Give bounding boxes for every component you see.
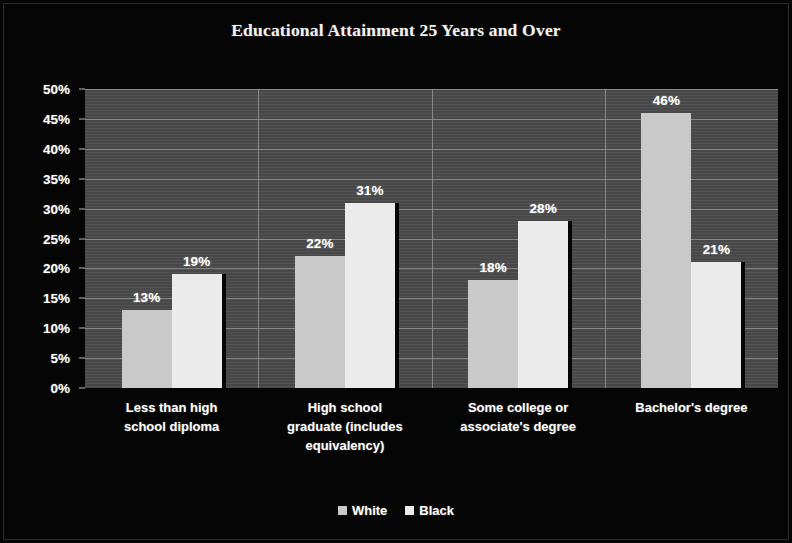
bar-white-1 [122,310,172,388]
category-label-2: High schoolgraduate (includesequivalency… [258,398,431,455]
bar-white-3 [468,280,518,388]
y-axis-tick-label: 40% [10,141,70,156]
category-label-4: Bachelor's degree [605,398,778,417]
bar-shadow [741,262,745,388]
bar-shadow [568,221,572,388]
legend-swatch-icon [338,506,347,515]
category-label-line: Bachelor's degree [605,398,778,417]
category-label-line: school diploma [85,417,258,436]
y-axis-tick-label: 0% [10,381,70,396]
chart-screenshot: Educational Attainment 25 Years and Over… [0,0,792,543]
y-axis-tick-label: 50% [10,82,70,97]
chart-title: Educational Attainment 25 Years and Over [0,20,792,41]
bar-black-1 [172,274,222,388]
y-axis-tick-label: 25% [10,231,70,246]
y-axis-tick-label: 30% [10,201,70,216]
category-label-line: Some college or [432,398,605,417]
category-label-line: Less than high [85,398,258,417]
bar-black-3 [518,221,568,388]
chart-legend: WhiteBlack [0,503,792,518]
category-separator [432,89,433,388]
category-label-line: High school [258,398,431,417]
legend-label: Black [419,503,454,518]
category-label-line: associate's degree [432,417,605,436]
bar-value-label: 18% [480,260,507,275]
bar-white-2 [295,256,345,388]
y-axis-tick-label: 15% [10,291,70,306]
bar-value-label: 13% [133,290,160,305]
legend-item-black[interactable]: Black [405,503,454,518]
bar-black-4 [691,262,741,388]
bar-value-label: 21% [703,242,730,257]
y-axis-tick-label: 35% [10,171,70,186]
legend-swatch-icon [405,506,414,515]
category-label-1: Less than highschool diploma [85,398,258,436]
category-separator [258,89,259,388]
bar-value-label: 28% [530,201,557,216]
bar-value-label: 19% [183,254,210,269]
bar-shadow [222,274,226,388]
legend-item-white[interactable]: White [338,503,387,518]
y-axis-tick-label: 10% [10,321,70,336]
bar-value-label: 46% [653,93,680,108]
bar-shadow [395,203,399,388]
y-axis-tick-label: 20% [10,261,70,276]
plot-area [85,89,778,388]
bar-white-4 [641,113,691,388]
category-label-line: equivalency) [258,436,431,455]
category-label-line: graduate (includes [258,417,431,436]
y-axis-tick-label: 5% [10,351,70,366]
category-label-3: Some college orassociate's degree [432,398,605,436]
legend-label: White [352,503,387,518]
category-separator [605,89,606,388]
bar-value-label: 31% [356,183,383,198]
y-axis-tick-label: 45% [10,111,70,126]
bar-value-label: 22% [306,236,333,251]
bar-black-2 [345,203,395,388]
